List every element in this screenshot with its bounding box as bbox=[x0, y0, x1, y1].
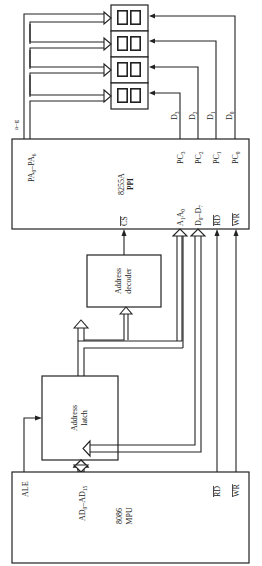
arrowhead-icon bbox=[215, 229, 220, 236]
segment-bus-line bbox=[30, 101, 104, 139]
segment-bus-line bbox=[30, 73, 104, 97]
arrowhead-icon bbox=[149, 39, 155, 44]
segment-bus-line bbox=[30, 48, 104, 69]
ppi-d0d7-label: D0–D7 bbox=[194, 205, 204, 226]
segment bbox=[117, 10, 119, 25]
ppi-chip-name: 8255A bbox=[117, 173, 126, 195]
segment bbox=[117, 75, 128, 77]
seven-segment-display bbox=[111, 83, 148, 109]
seven-segment-display bbox=[111, 5, 148, 31]
segment-bus: a–g bbox=[12, 12, 111, 139]
mpu-chip-subtitle: MPU bbox=[125, 507, 134, 525]
mpu-chip-name: 8086 bbox=[115, 508, 124, 524]
mpu-8086-block: ALE AD0–AD15 8086 MPU RD WR bbox=[12, 472, 249, 563]
a1a0-bus-arrowhead bbox=[173, 229, 187, 236]
segment bbox=[130, 36, 132, 51]
segment bbox=[126, 10, 128, 25]
segment bbox=[139, 88, 141, 103]
segment bbox=[117, 62, 128, 64]
segment-bus-label: a–g bbox=[12, 119, 20, 130]
segment-bus-line bbox=[30, 75, 104, 95]
segment bbox=[130, 23, 141, 25]
control-lines bbox=[215, 229, 239, 472]
address-bus-line bbox=[84, 348, 183, 376]
address-decoder-block: Address decoder bbox=[87, 229, 161, 307]
address-bus-arrowhead bbox=[74, 320, 88, 328]
segment bbox=[130, 88, 141, 90]
segment bbox=[139, 10, 141, 25]
ppi-8255a-block: PA0–PA6 8255A PPI PC3 PC2 PC1 PC0 CS A1A… bbox=[12, 139, 249, 229]
data-bus-arrowhead bbox=[191, 229, 205, 236]
seven-segment-display bbox=[111, 31, 148, 57]
segment-bus-line bbox=[30, 22, 104, 44]
interface-diagram: a–g D3 D2 D1 D0 PA0–PA6 8255A PPI bbox=[0, 0, 262, 566]
segment bbox=[117, 62, 119, 77]
address-bus-arrowhead bbox=[120, 307, 132, 314]
segment bbox=[117, 88, 128, 90]
segment bbox=[130, 88, 132, 103]
ppi-pa-label: PA0–PA6 bbox=[27, 153, 37, 182]
segment-bus-arrowhead bbox=[104, 12, 111, 24]
segment bbox=[139, 36, 141, 51]
mpu-wr-label: WR bbox=[232, 483, 241, 497]
segment-bus-line bbox=[30, 24, 104, 42]
segment bbox=[117, 36, 119, 51]
segment bbox=[130, 101, 141, 103]
ppi-rd-label: RD bbox=[213, 215, 222, 226]
mpu-rd-label: RD bbox=[213, 486, 222, 497]
address-decoder-label-line1: Address bbox=[114, 268, 123, 294]
address-latch-block: Address latch bbox=[42, 376, 118, 460]
digit-drive-lines: D3 D2 D1 D0 bbox=[149, 14, 235, 140]
arrowhead-icon bbox=[234, 229, 239, 236]
segment-bus-line bbox=[30, 50, 104, 67]
ale-wire bbox=[24, 418, 37, 472]
ad-bus-arrowhead-down bbox=[74, 465, 88, 472]
segment bbox=[126, 36, 128, 51]
segment bbox=[117, 36, 128, 38]
segment-bus-arrowhead bbox=[104, 64, 111, 76]
segment-bus-arrowhead bbox=[104, 38, 111, 50]
segment bbox=[139, 62, 141, 77]
arrowhead-icon bbox=[149, 91, 155, 96]
seven-segment-display bbox=[111, 57, 148, 83]
seven-segment-display-group bbox=[111, 5, 148, 109]
segment bbox=[130, 62, 141, 64]
ale-line bbox=[24, 416, 42, 473]
segment bbox=[130, 10, 141, 12]
ppi-cs-label: CS bbox=[120, 216, 129, 226]
digit-label-d3: D3 bbox=[170, 111, 180, 120]
segment bbox=[130, 62, 132, 77]
segment bbox=[117, 101, 128, 103]
arrowhead-icon bbox=[149, 65, 155, 70]
ppi-wr-label: WR bbox=[232, 212, 241, 226]
segment bbox=[117, 23, 128, 25]
digit-label-d2: D2 bbox=[188, 111, 198, 120]
mpu-ale-label: ALE bbox=[21, 481, 30, 497]
segment bbox=[130, 10, 132, 25]
segment bbox=[117, 49, 128, 51]
address-decoder-label-line2: decoder bbox=[124, 268, 133, 294]
digit-drive-line-d1 bbox=[153, 41, 216, 139]
segment-bus-line bbox=[24, 14, 104, 139]
segment bbox=[117, 88, 119, 103]
address-bus-line bbox=[84, 314, 124, 340]
segment bbox=[130, 75, 141, 77]
segment bbox=[130, 36, 141, 38]
segment bbox=[117, 10, 128, 12]
segment-bus-arrowhead bbox=[104, 90, 111, 102]
ad-bus bbox=[74, 460, 88, 472]
segment bbox=[126, 88, 128, 103]
arrowhead-icon bbox=[149, 14, 155, 19]
digit-label-d0: D0 bbox=[225, 111, 235, 120]
segment bbox=[130, 49, 141, 51]
address-latch-label-line1: Address bbox=[70, 405, 79, 431]
digit-label-d1: D1 bbox=[206, 111, 216, 120]
ppi-chip-subtitle: PPI bbox=[126, 178, 135, 190]
segment bbox=[126, 62, 128, 77]
arrowhead-icon bbox=[122, 229, 127, 236]
digit-drive-line-d2 bbox=[153, 67, 198, 139]
arrowhead-icon bbox=[35, 416, 42, 421]
address-latch-label-line2: latch bbox=[80, 410, 89, 426]
